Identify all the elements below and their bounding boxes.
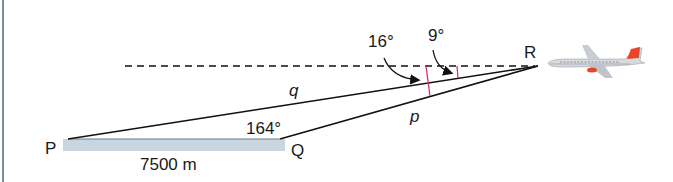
label-angle-9: 9° [428,27,444,44]
side-p [280,66,538,139]
label-point-r: R [524,44,536,61]
label-angle-16: 16° [368,33,394,50]
airplane-icon [548,45,645,78]
angle-mark-16 [426,66,430,96]
diagram-svg [0,0,673,182]
label-distance-pq: 7500 m [140,156,197,173]
arrow-16-icon [384,58,418,80]
label-side-p: p [410,108,419,125]
runway-strip [63,139,285,151]
diagram-canvas: P Q R q p 7500 m 164° 16° 9° [0,0,673,182]
label-side-q: q [289,82,298,99]
label-point-p: P [45,140,56,157]
label-point-q: Q [291,142,304,159]
angle-mark-9 [457,66,458,78]
arrow-9-icon [433,50,451,73]
label-angle-164: 164° [246,120,281,137]
side-q [68,66,538,139]
